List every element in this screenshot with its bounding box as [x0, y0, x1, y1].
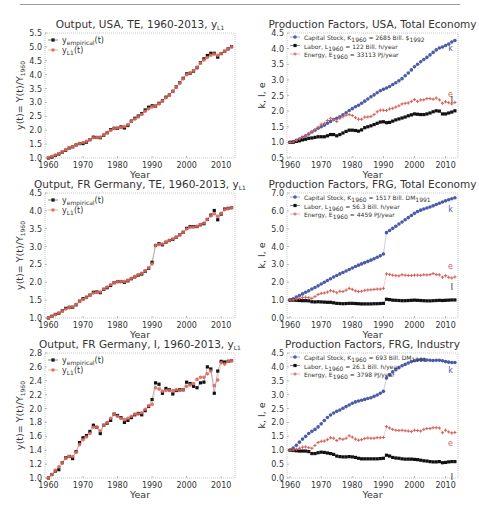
- data-point: [202, 221, 206, 225]
- data-point: [71, 145, 75, 149]
- data-point: [453, 431, 456, 434]
- data-point: [416, 113, 419, 116]
- data-point: [354, 265, 358, 269]
- x-axis-label: Year: [129, 489, 150, 500]
- data-point: [154, 244, 158, 248]
- data-point: [376, 302, 379, 305]
- data-point: [150, 403, 154, 407]
- data-point: [64, 307, 68, 311]
- series-fit: [47, 45, 234, 159]
- data-point: [447, 299, 450, 302]
- data-point: [407, 274, 410, 277]
- y-tick-label: 3.0: [271, 260, 284, 269]
- data-point: [326, 301, 329, 304]
- data-point: [363, 398, 367, 402]
- data-point: [431, 204, 435, 208]
- data-point: [410, 113, 413, 116]
- data-point: [416, 429, 419, 432]
- x-tick-label: 1970: [311, 321, 331, 330]
- data-point: [428, 53, 432, 57]
- data-point: [133, 412, 137, 416]
- data-point: [366, 397, 370, 401]
- data-point: [109, 283, 113, 287]
- data-point: [360, 102, 364, 106]
- data-point: [366, 302, 369, 305]
- data-point: [88, 432, 92, 436]
- data-point: [410, 68, 414, 72]
- y-tick-label: 3.0: [29, 98, 42, 107]
- data-point: [116, 126, 120, 130]
- series-end-label: k: [448, 44, 453, 53]
- y-tick-label: 1.4: [29, 446, 42, 455]
- x-tick-label: 1980: [342, 161, 362, 170]
- x-tick-label: 2010: [435, 161, 455, 170]
- data-point: [428, 97, 431, 100]
- data-point: [316, 425, 320, 429]
- data-point: [143, 407, 147, 411]
- data-point: [341, 271, 345, 275]
- data-point: [434, 203, 438, 207]
- y-tick-label: 3.5: [271, 377, 284, 386]
- data-point: [320, 300, 323, 303]
- data-point: [363, 457, 366, 460]
- data-point: [397, 457, 400, 460]
- data-point: [313, 452, 316, 455]
- data-point: [136, 273, 140, 277]
- data-point: [435, 273, 438, 276]
- data-point: [304, 296, 307, 299]
- data-point: [202, 376, 206, 380]
- data-point: [47, 476, 51, 480]
- x-tick-label: 1970: [311, 481, 331, 490]
- data-point: [419, 274, 422, 277]
- data-point: [188, 71, 192, 75]
- data-point: [326, 438, 329, 441]
- data-point: [130, 277, 134, 281]
- data-point: [363, 289, 366, 292]
- data-point: [338, 133, 341, 136]
- data-point: [319, 422, 323, 426]
- y-tick-label: 2.2: [29, 391, 42, 400]
- data-point: [369, 302, 372, 305]
- data-point: [341, 406, 345, 410]
- data-point: [226, 360, 230, 364]
- data-point: [323, 291, 326, 294]
- data-point: [351, 302, 354, 305]
- data-point: [338, 437, 341, 440]
- data-point: [181, 388, 185, 392]
- data-point: [419, 429, 422, 432]
- data-point: [310, 287, 314, 291]
- data-point: [154, 381, 157, 384]
- y-tick-label: 2.5: [271, 405, 284, 414]
- data-point: [369, 396, 373, 400]
- legend-entry: Energy, E1960 = 4459 PJ/year: [304, 211, 395, 220]
- data-point: [354, 302, 357, 305]
- data-point: [382, 109, 385, 112]
- data-point: [410, 430, 413, 433]
- data-point: [391, 227, 395, 231]
- data-point: [188, 383, 192, 387]
- data-point: [112, 127, 116, 131]
- data-point: [413, 299, 416, 302]
- svg-text:k, l, e: k, l, e: [256, 242, 267, 268]
- data-point: [419, 60, 423, 64]
- data-point: [60, 309, 64, 313]
- data-point: [435, 299, 438, 302]
- data-point: [372, 288, 375, 291]
- x-tick-label: 2000: [404, 321, 424, 330]
- data-point: [130, 414, 134, 418]
- data-point: [397, 274, 400, 277]
- data-point: [410, 299, 413, 302]
- data-point: [441, 299, 444, 302]
- data-point: [316, 451, 319, 454]
- chart-title: Output, USA, TE, 1960-2013, yL1: [56, 18, 225, 31]
- data-point: [206, 218, 210, 222]
- data-point: [81, 438, 85, 442]
- data-point: [226, 47, 230, 51]
- data-point: [344, 455, 347, 458]
- data-point: [316, 300, 319, 303]
- data-point: [295, 443, 299, 447]
- data-point: [360, 262, 364, 266]
- data-point: [64, 457, 68, 461]
- data-point: [85, 140, 89, 144]
- data-point: [422, 273, 425, 276]
